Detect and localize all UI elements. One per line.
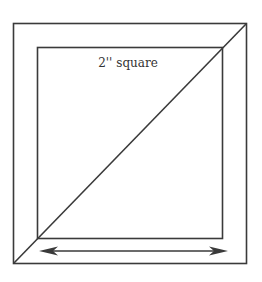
- double-arrow: [39, 247, 228, 256]
- square-size-label: 2'' square: [98, 56, 158, 70]
- quilt-diagram: 2'' square: [0, 0, 262, 282]
